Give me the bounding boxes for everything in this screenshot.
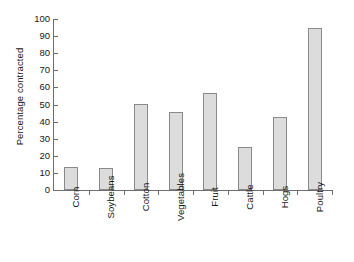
x-axis-tick-mark — [332, 190, 333, 195]
y-axis-tick-mark — [54, 122, 58, 123]
plot-area — [53, 19, 332, 191]
y-axis-tick-label: 60 — [39, 81, 50, 93]
y-axis-tick-mark — [54, 19, 58, 20]
x-axis-tick-label: Corn — [53, 197, 88, 259]
x-axis-tick-mark — [158, 190, 159, 195]
x-axis-tick-label-text: Soybeans — [105, 175, 116, 218]
y-axis-tick-mark — [54, 105, 58, 106]
y-axis-tick-label: 90 — [39, 30, 50, 42]
x-axis-tick-label-text: Vegetables — [175, 173, 186, 221]
x-axis-tick-mark — [297, 190, 298, 195]
bars-layer — [54, 19, 332, 190]
x-axis-tick-mark — [193, 190, 194, 195]
x-axis-tick-label: Fruit — [192, 197, 227, 259]
y-axis-tick-label: 80 — [39, 47, 50, 59]
x-axis-tick-labels: CornSoybeansCottonVegetablesFruitCattleH… — [53, 197, 331, 262]
y-axis-tick-mark — [54, 139, 58, 140]
bar-hogs — [273, 117, 287, 190]
y-axis-title-text: Percentage contracted — [15, 47, 26, 145]
x-axis-tick-label-text: Poultry — [314, 182, 325, 212]
x-axis-tick-label: Cotton — [123, 197, 158, 259]
y-axis-tick-label: 10 — [39, 167, 50, 179]
y-axis-tick-labels: 0102030405060708090100 — [26, 0, 50, 192]
bar-cotton — [134, 104, 148, 190]
bar-poultry — [308, 28, 322, 190]
bar-chart-figure: Percentage contracted 010203040506070809… — [0, 0, 354, 262]
bar-fruit — [203, 93, 217, 190]
x-axis-tick-label-text: Hogs — [279, 186, 290, 209]
y-axis-tick-label: 20 — [39, 150, 50, 162]
x-axis-tick-mark — [124, 190, 125, 195]
x-axis-tick-mark — [89, 190, 90, 195]
y-axis-tick-label: 0 — [45, 184, 50, 196]
y-axis-tick-mark — [54, 173, 58, 174]
x-axis-tick-label-text: Cattle — [244, 184, 255, 209]
x-axis-tick-label: Hogs — [262, 197, 297, 259]
y-axis-tick-mark — [54, 36, 58, 37]
y-axis-tick-mark — [54, 190, 58, 191]
y-axis-tick-label: 100 — [34, 13, 50, 25]
y-axis-tick-mark — [54, 53, 58, 54]
y-axis-tick-mark — [54, 156, 58, 157]
x-axis-tick-label: Vegetables — [157, 197, 192, 259]
x-axis-tick-label-text: Cotton — [140, 183, 151, 212]
x-axis-tick-mark — [228, 190, 229, 195]
y-axis-tick-label: 70 — [39, 64, 50, 76]
y-axis-tick-mark — [54, 87, 58, 88]
y-axis-tick-mark — [54, 70, 58, 71]
x-axis-tick-label-text: Fruit — [209, 187, 220, 207]
x-axis-tick-label: Poultry — [296, 197, 331, 259]
y-axis-tick-label: 30 — [39, 133, 50, 145]
x-axis-tick-label: Soybeans — [88, 197, 123, 259]
x-axis-tick-label-text: Corn — [70, 187, 81, 208]
y-axis-tick-label: 40 — [39, 116, 50, 128]
x-axis-tick-mark — [263, 190, 264, 195]
x-axis-tick-label: Cattle — [227, 197, 262, 259]
y-axis-tick-label: 50 — [39, 99, 50, 111]
